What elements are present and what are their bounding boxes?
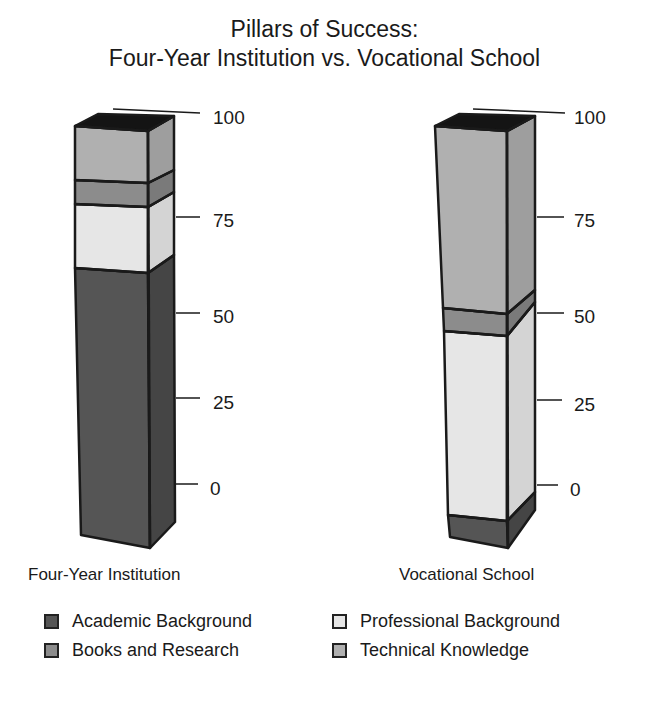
segment-academic-side <box>148 255 175 548</box>
legend-swatch-technical <box>332 643 347 658</box>
tick-label-75: 75 <box>213 210 234 231</box>
tick-label-100: 100 <box>213 107 245 128</box>
legend-label: Academic Background <box>72 611 252 632</box>
legend-item-professional: Professional Background <box>332 611 560 632</box>
tick-label-75: 75 <box>574 210 595 231</box>
legend-swatch-books <box>44 643 59 658</box>
segment-academic-front <box>75 268 150 548</box>
legend-item-books: Books and Research <box>44 640 239 661</box>
tick-label-0: 0 <box>210 478 221 499</box>
tick-label-100: 100 <box>574 107 606 128</box>
bar-four-year-institution <box>75 114 175 548</box>
category-label-vocational: Vocational School <box>399 565 534 585</box>
legend-item-academic: Academic Background <box>44 611 252 632</box>
chart-plot-area: 100 75 50 25 0 100 75 50 25 0 <box>0 0 649 712</box>
legend-label: Professional Background <box>360 611 560 632</box>
category-label-four-year: Four-Year Institution <box>28 565 180 585</box>
segment-books-front <box>75 180 148 207</box>
segment-technical-side <box>507 116 535 314</box>
legend-label: Technical Knowledge <box>360 640 529 661</box>
tick-label-50: 50 <box>213 306 234 327</box>
legend-swatch-professional <box>332 614 347 629</box>
tick-label-50: 50 <box>574 306 595 327</box>
legend-label: Books and Research <box>72 640 239 661</box>
segment-professional-front <box>444 331 507 521</box>
segment-technical-front <box>75 126 148 183</box>
segment-professional-front <box>75 204 148 273</box>
segment-professional-side <box>507 302 535 521</box>
segment-technical-front <box>435 126 507 314</box>
tick-label-25: 25 <box>213 392 234 413</box>
tick-label-0: 0 <box>570 479 581 500</box>
bar-vocational-school <box>435 114 535 548</box>
legend-item-technical: Technical Knowledge <box>332 640 529 661</box>
legend-swatch-academic <box>44 614 59 629</box>
tick-label-25: 25 <box>574 394 595 415</box>
